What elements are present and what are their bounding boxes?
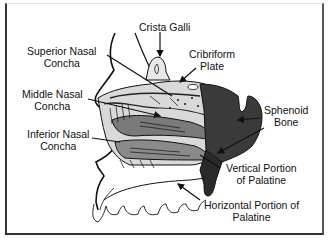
label-vertical-portion-palatine: Vertical Portion of Palatine [226, 162, 297, 186]
label-middle-nasal-concha: Middle Nasal Concha [22, 88, 83, 112]
label-cribriform-plate: Cribriform Plate [189, 48, 235, 72]
teeth-row [93, 200, 206, 222]
nose-bridge-line [135, 33, 150, 68]
label-horizontal-portion-palatine: Horizontal Portion of Palatine [204, 199, 299, 223]
label-superior-nasal-concha: Superior Nasal Concha [27, 45, 96, 69]
hard-palate-line [104, 178, 206, 200]
label-crista-galli: Crista Galli [139, 21, 190, 33]
horizontal-palatine-pointer [178, 184, 200, 200]
label-sphenoid-bone: Sphenoid Bone [264, 104, 308, 128]
crista-galli-shape [146, 57, 170, 80]
label-inferior-nasal-concha: Inferior Nasal Concha [27, 128, 89, 152]
